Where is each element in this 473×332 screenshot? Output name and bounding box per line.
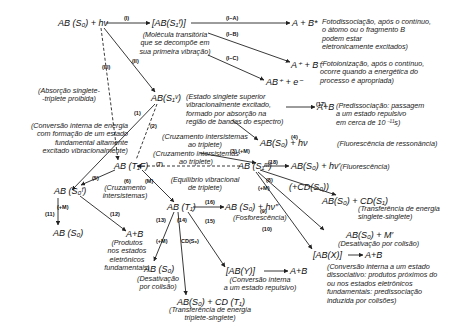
label-I-C: (I−C) [226, 55, 238, 61]
note-internal-conv: (Conversão interna de energia com formaç… [10, 122, 128, 156]
photochemistry-diagram: (I) (I−A) (I−B) (I−C) (II) (III) (1) (2)… [0, 0, 473, 332]
note-phos: (Fosforescência) [233, 214, 287, 222]
note-vib-eq: (Equilíbrio vibracional de triplete) [160, 176, 250, 193]
label-I: (I) [124, 15, 129, 21]
note-ss-transfer: (Transferência de energia singlete-singl… [358, 205, 440, 222]
label-8: (8) [266, 177, 273, 183]
label-14-cd: CD(S₀) [181, 238, 199, 244]
note-forbidden: (Absorção singlete- -triplete proibida) [30, 87, 108, 104]
note-photoion: (Fotoionização, após o contínuo, ocorre … [320, 60, 424, 85]
note-photodissoc: Fotodissociação, após o contínuo, o átom… [322, 18, 431, 52]
note-t1-coll: (Desativação por colisão) [130, 275, 186, 292]
label-I-A: (I−A) [226, 15, 238, 21]
species-plus-cd: (+CD(S₀)) [289, 182, 329, 192]
species-ab-plus: AB⁺ + e⁻ [266, 77, 303, 87]
note-predissoc: (Predissociação: passagem a um estado re… [336, 102, 424, 127]
species-predissoc: A+B [317, 102, 334, 112]
label-10: (10) [262, 226, 272, 232]
note-aby: (Conversão interna a um estado repulsivo… [214, 276, 306, 293]
species-abx: [AB(X)] [313, 250, 342, 260]
label-12: (12) [110, 211, 120, 217]
label-2: (2) [150, 123, 157, 129]
note-isc3: (Cruzamento intersistemas) [96, 184, 154, 201]
species-s0f: AB (S₀ᶠ) [54, 186, 86, 196]
species-s0-final: AB (S₀) [53, 228, 83, 238]
species-ion-products: A⁺ + B⁻ [291, 60, 323, 70]
label-III: (III) [102, 64, 110, 70]
species-abx-products: A+B [365, 250, 382, 260]
species-s1-vib: AB(S₁ᵛ) [151, 93, 181, 103]
label-13: (13) [156, 217, 166, 223]
label-5: (5) [92, 175, 99, 181]
label-I-B: (I−B) [226, 31, 238, 37]
note-isc2: (Cruzamento intersistemas ao triplete) [144, 150, 248, 167]
label-11-M: (+M) [57, 204, 68, 210]
label-II: (II) [132, 58, 139, 64]
label-16: (16) [205, 199, 215, 205]
note-coll-deact: (Desativação por colisão) [338, 240, 419, 248]
label-1: (1) [134, 110, 141, 116]
species-ground-hv: AB (S₀) + hν [58, 18, 108, 28]
species-phos: AB (S₀) + hν″ [225, 202, 278, 212]
label-plus-M: (+M) [258, 185, 269, 191]
label-15: (15) [205, 218, 215, 224]
note-s1-state: (Estado singlete superior vibracionalmen… [186, 93, 284, 127]
species-fluor: AB(S₀) + hν′ [291, 161, 340, 171]
species-aby-products: A+B [290, 266, 307, 276]
note-fluor: (Fluorescência) [340, 163, 390, 171]
species-dissoc-products: A + B* [292, 18, 317, 28]
species-transient: [AB(S₁ᶠ)] [152, 18, 186, 28]
label-14: (14) [177, 217, 187, 223]
note-abx: (Conversão interna a um estado dissociat… [327, 263, 437, 305]
label-11: (11) [45, 211, 54, 217]
species-t1: AB (T₁) [167, 202, 196, 212]
note-ground-products: (Produtos nos estados eletrônicos fundam… [96, 239, 158, 273]
note-transient: (Molécula transitória que se decompõe em… [135, 31, 215, 56]
note-ts-transfer: (Transferência de energia triplete-singl… [160, 306, 260, 323]
note-fluor-res: (Fluorescência de ressonância) [337, 140, 437, 148]
note-isc1: (Cruzamento intersistemas ao triplete) [152, 133, 258, 150]
species-fluor-resonance: AB(S₀) + hν [260, 138, 308, 148]
